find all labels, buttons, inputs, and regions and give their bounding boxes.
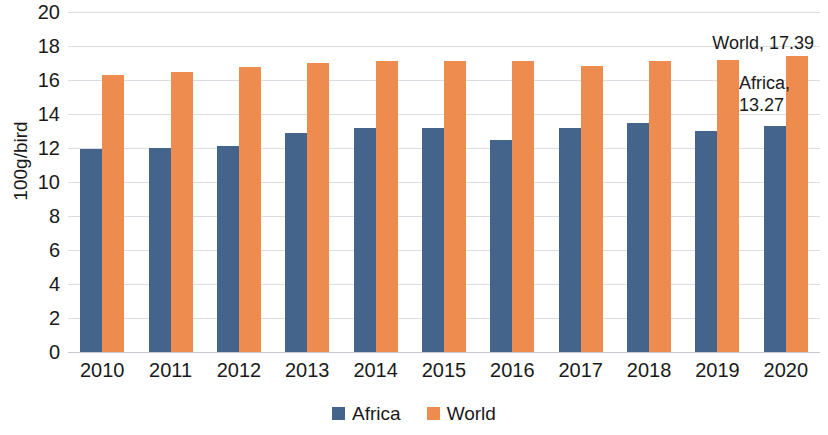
bar-world-2017[interactable] [581, 66, 603, 352]
bar-africa-2013[interactable] [285, 133, 307, 352]
bar-group [354, 12, 398, 352]
bar-africa-2020[interactable] [764, 126, 786, 352]
bar-world-2018[interactable] [649, 61, 671, 352]
bar-group [422, 12, 466, 352]
bar-africa-2014[interactable] [354, 128, 376, 352]
x-axis-tick-label: 2017 [547, 358, 615, 382]
bar-group [285, 12, 329, 352]
bar-africa-2017[interactable] [559, 128, 581, 352]
bar-africa-2010[interactable] [80, 149, 102, 352]
bar-africa-2012[interactable] [217, 146, 239, 352]
annotation-africa-value: Africa, 13.27 [739, 72, 790, 116]
y-axis-tick-label: 0 [20, 342, 60, 362]
x-axis-tick-label: 2016 [478, 358, 546, 382]
bar-africa-2016[interactable] [490, 140, 512, 353]
bar-world-2012[interactable] [239, 67, 261, 352]
legend-item-africa[interactable]: Africa [332, 404, 401, 423]
annotation-world-value: World, 17.39 [712, 32, 814, 54]
legend-swatch-icon [427, 407, 440, 420]
y-axis-tick-label: 6 [20, 240, 60, 260]
y-axis-tick-label: 14 [20, 104, 60, 124]
y-axis-tick-label: 16 [20, 70, 60, 90]
legend-swatch-icon [332, 407, 345, 420]
bar-world-2019[interactable] [717, 60, 739, 352]
y-axis-tick-label: 4 [20, 274, 60, 294]
bar-world-2016[interactable] [512, 61, 534, 352]
gridline [68, 352, 820, 353]
bar-group [490, 12, 534, 352]
legend-item-world[interactable]: World [427, 404, 496, 423]
y-axis-tick-label: 18 [20, 36, 60, 56]
bar-world-2011[interactable] [171, 72, 193, 353]
bar-africa-2011[interactable] [149, 148, 171, 352]
legend-label: Africa [352, 404, 401, 423]
x-axis-tick-label: 2020 [752, 358, 820, 382]
y-axis-tick-label: 2 [20, 308, 60, 328]
bar-africa-2015[interactable] [422, 128, 444, 352]
bar-world-2013[interactable] [307, 63, 329, 352]
y-axis-tick-label: 20 [20, 2, 60, 22]
x-axis-tick-label: 2014 [341, 358, 409, 382]
x-axis-tick-label: 2013 [273, 358, 341, 382]
bar-chart: 100g/bird 20181614121086420 201020112012… [0, 0, 828, 435]
bar-africa-2019[interactable] [695, 131, 717, 352]
bar-world-2015[interactable] [444, 61, 466, 352]
plot-area [68, 12, 820, 352]
x-axis-tick-label: 2012 [205, 358, 273, 382]
bar-africa-2018[interactable] [627, 123, 649, 352]
x-axis-tick-label: 2018 [615, 358, 683, 382]
bar-group [217, 12, 261, 352]
bar-group [764, 12, 808, 352]
x-axis-tick-labels: 2010201120122013201420152016201720182019… [68, 358, 820, 388]
bar-group [149, 12, 193, 352]
bar-group [627, 12, 671, 352]
y-axis-tick-label: 10 [20, 172, 60, 192]
legend-label: World [447, 404, 496, 423]
x-axis-tick-label: 2011 [136, 358, 204, 382]
bar-group [80, 12, 124, 352]
bar-group [559, 12, 603, 352]
y-axis-tick-label: 8 [20, 206, 60, 226]
x-axis-tick-label: 2015 [410, 358, 478, 382]
x-axis-tick-label: 2019 [683, 358, 751, 382]
x-axis-tick-label: 2010 [68, 358, 136, 382]
bar-world-2010[interactable] [102, 75, 124, 352]
bar-group [695, 12, 739, 352]
chart-legend: AfricaWorld [0, 404, 828, 423]
y-axis-tick-label: 12 [20, 138, 60, 158]
bar-world-2014[interactable] [376, 61, 398, 352]
y-axis-tick-labels: 20181614121086420 [14, 12, 60, 352]
